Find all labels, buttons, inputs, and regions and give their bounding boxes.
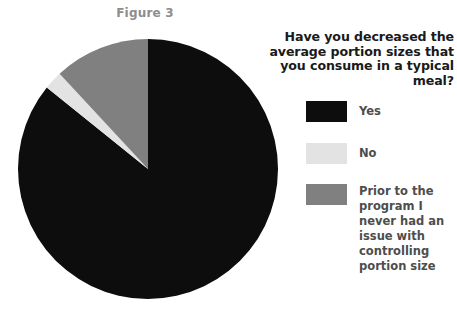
legend-item-prior[interactable]: Prior to the program I never had an issu… [268,184,457,274]
legend-items: Yes No Prior to the program I never had … [268,101,457,274]
legend-swatch-prior [306,184,347,205]
pie-slices [18,39,278,299]
legend-swatch-yes [306,101,347,122]
legend: Have you decreased the average portion s… [268,30,457,305]
pie-chart-svg [17,38,279,300]
legend-swatch-no [306,143,347,164]
legend-label-yes: Yes [359,101,381,120]
figure-caption: Figure 3 [0,6,290,20]
pie-chart [17,38,279,300]
legend-item-no[interactable]: No [268,143,457,164]
legend-question-title: Have you decreased the average portion s… [268,30,454,89]
legend-item-yes[interactable]: Yes [268,101,457,122]
legend-label-no: No [359,143,377,162]
legend-label-prior: Prior to the program I never had an issu… [359,184,444,274]
